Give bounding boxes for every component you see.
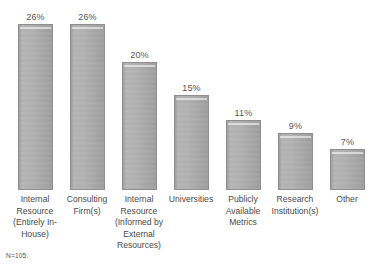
category-label-publicly-available-metrics: Publicly Available Metrics bbox=[217, 194, 269, 229]
bar-slot: 15% bbox=[174, 0, 209, 191]
sample-size-footnote: N=105. bbox=[6, 252, 28, 259]
category-label-consulting-firms: Consulting Firm(s) bbox=[61, 194, 113, 217]
bar bbox=[174, 95, 209, 190]
category-label-line: Metrics bbox=[217, 217, 269, 229]
bar-slot: 9% bbox=[278, 0, 313, 191]
bar bbox=[278, 133, 313, 190]
bar-value-label: 9% bbox=[278, 121, 313, 131]
bar-slot: 26% bbox=[18, 0, 53, 191]
category-label-line: Available bbox=[217, 206, 269, 218]
category-label-line: Internal bbox=[113, 194, 165, 206]
bar bbox=[18, 24, 53, 190]
category-label-internal-resource-in-house: Internal Resource (Entirely In- House) bbox=[9, 194, 61, 240]
category-label-line: (Informed by bbox=[113, 217, 165, 229]
category-label-line: Consulting bbox=[61, 194, 113, 206]
bar bbox=[226, 120, 261, 190]
bar-slot: 20% bbox=[122, 0, 157, 191]
category-axis: Internal Resource (Entirely In- House) C… bbox=[0, 194, 376, 254]
bar-value-label: 7% bbox=[330, 137, 365, 147]
bar-value-label: 15% bbox=[174, 83, 209, 93]
category-label-line: Resource bbox=[9, 206, 61, 218]
bar bbox=[330, 149, 365, 190]
bar bbox=[70, 24, 105, 190]
bar bbox=[122, 62, 157, 190]
bar-slot: 11% bbox=[226, 0, 261, 191]
category-label-universities: Universities bbox=[165, 194, 217, 206]
category-label-internal-resource-informed: Internal Resource (Informed by External … bbox=[113, 194, 165, 252]
bar-slot: 26% bbox=[70, 0, 105, 191]
category-label-line: Research bbox=[269, 194, 321, 206]
category-label-line: Universities bbox=[165, 194, 217, 206]
category-label-research-institutions: Research Institution(s) bbox=[269, 194, 321, 217]
bar-slot: 7% bbox=[330, 0, 365, 191]
bar-value-label: 26% bbox=[18, 12, 53, 22]
bar-value-label: 20% bbox=[122, 50, 157, 60]
category-label-line: Publicly bbox=[217, 194, 269, 206]
category-label-line: Other bbox=[321, 194, 373, 206]
category-label-line: (Entirely In- bbox=[9, 217, 61, 229]
category-label-line: Firm(s) bbox=[61, 206, 113, 218]
category-label-other: Other bbox=[321, 194, 373, 206]
bar-chart: 26% 26% 20% 15% 11% 9% 7% bbox=[0, 0, 376, 273]
category-label-line: Internal bbox=[9, 194, 61, 206]
category-label-line: Institution(s) bbox=[269, 206, 321, 218]
bar-value-label: 11% bbox=[226, 108, 261, 118]
category-label-line: Resources) bbox=[113, 240, 165, 252]
category-label-line: External bbox=[113, 229, 165, 241]
category-label-line: Resource bbox=[113, 206, 165, 218]
category-label-line: House) bbox=[9, 229, 61, 241]
bar-value-label: 26% bbox=[70, 12, 105, 22]
plot-area: 26% 26% 20% 15% 11% 9% 7% bbox=[0, 0, 376, 191]
